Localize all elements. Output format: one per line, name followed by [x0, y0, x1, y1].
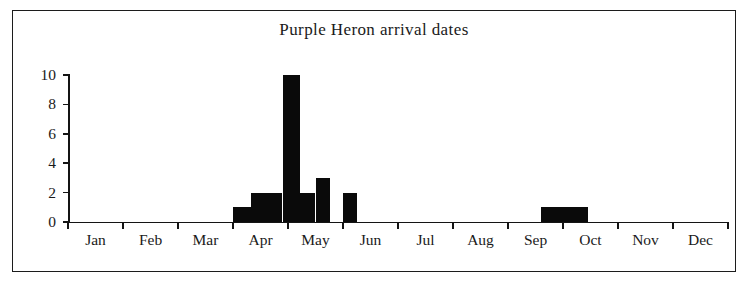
y-tick-8: [63, 104, 69, 106]
bar-5: [316, 178, 330, 222]
x-axis-label-apr: Apr: [231, 231, 291, 249]
y-tick-10: [63, 74, 69, 76]
x-tick-8: [507, 222, 509, 229]
x-axis-label-feb: Feb: [121, 231, 181, 249]
x-tick-11: [672, 222, 674, 229]
bar-6: [343, 193, 357, 222]
x-axis-label-nov: Nov: [616, 231, 676, 249]
y-axis-label-6: 6: [22, 125, 56, 143]
y-tick-label-wrap-8: 8: [22, 95, 56, 111]
x-axis-label-sep: Sep: [506, 231, 566, 249]
y-axis-label-10: 10: [22, 66, 56, 84]
y-tick-label-wrap-6: 6: [22, 125, 56, 141]
y-axis-line: [68, 74, 70, 223]
x-axis-label-jun: Jun: [341, 231, 401, 249]
y-tick-label-wrap-0: 0: [22, 213, 56, 229]
plot-area: 0246810 JanFebMarAprMayJunJulAugSepOctNo…: [0, 0, 748, 285]
y-axis-label-8: 8: [22, 95, 56, 113]
x-axis-label-oct: Oct: [561, 231, 621, 249]
x-axis-label-jul: Jul: [396, 231, 456, 249]
x-tick-4: [287, 222, 289, 229]
y-axis-label-0: 0: [22, 213, 56, 231]
x-axis-label-dec: Dec: [671, 231, 731, 249]
y-axis-label-2: 2: [22, 184, 56, 202]
bar-2: [269, 193, 282, 222]
x-tick-1: [122, 222, 124, 229]
bar-4: [300, 193, 315, 222]
chart-figure: Purple Heron arrival dates 0246810 JanFe…: [0, 0, 748, 285]
x-tick-0: [67, 222, 69, 229]
y-axis-label-4: 4: [22, 154, 56, 172]
x-axis-label-aug: Aug: [451, 231, 511, 249]
y-tick-4: [63, 162, 69, 164]
x-axis-label-may: May: [286, 231, 346, 249]
x-tick-5: [342, 222, 344, 229]
bar-1: [251, 193, 269, 222]
bar-7: [541, 207, 588, 222]
x-tick-3: [232, 222, 234, 229]
y-tick-label-wrap-2: 2: [22, 184, 56, 200]
x-tick-7: [452, 222, 454, 229]
bar-0: [233, 207, 251, 222]
x-tick-2: [177, 222, 179, 229]
y-tick-label-wrap-10: 10: [22, 66, 56, 82]
x-axis-label-mar: Mar: [176, 231, 236, 249]
x-axis-label-jan: Jan: [66, 231, 126, 249]
y-tick-2: [63, 192, 69, 194]
x-tick-12: [727, 222, 729, 229]
y-tick-6: [63, 133, 69, 135]
x-tick-9: [562, 222, 564, 229]
y-tick-label-wrap-4: 4: [22, 154, 56, 170]
x-tick-10: [617, 222, 619, 229]
bar-3: [283, 75, 301, 222]
x-tick-6: [397, 222, 399, 229]
